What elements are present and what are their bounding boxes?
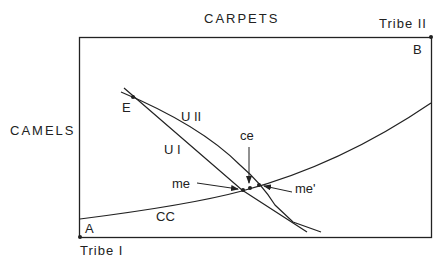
origin-tribe-2-dot <box>429 35 433 39</box>
endowment-point-e <box>131 95 135 99</box>
u1-label: U I <box>164 143 181 156</box>
point-ce <box>248 186 252 190</box>
arrow-me-prime <box>264 186 292 192</box>
corner-b-label: B <box>413 43 422 56</box>
u2-label: U II <box>181 110 201 123</box>
point-me <box>241 188 245 192</box>
tribe-1-label: Tribe I <box>80 244 123 257</box>
endowment-label: E <box>122 101 131 114</box>
carpets-axis-label: CARPETS <box>204 12 279 25</box>
ce-label: ce <box>240 129 254 142</box>
arrow-me <box>197 183 238 189</box>
indifference-curve-u2 <box>121 92 321 232</box>
camels-axis-label: CAMELS <box>10 124 75 137</box>
origin-tribe-1-dot <box>78 235 82 239</box>
corner-a-label: A <box>85 222 94 235</box>
point-me-prime <box>257 183 261 187</box>
indifference-curve-u1 <box>124 88 307 232</box>
tribe-2-label: Tribe II <box>379 17 427 30</box>
contract-curve-label: CC <box>156 210 175 223</box>
me-prime-label: me' <box>295 182 316 195</box>
box-frame <box>80 38 432 238</box>
me-label: me <box>172 177 190 190</box>
contract-curve <box>80 103 431 219</box>
